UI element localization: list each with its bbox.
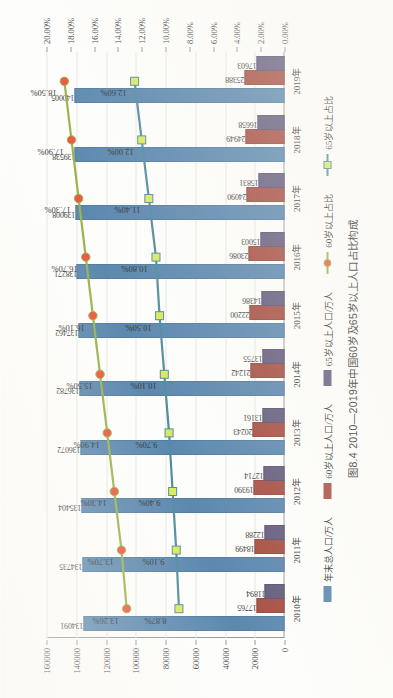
bar-value-label: 23086 (229, 251, 248, 260)
secondary-axis-tick-label: 2.00% (255, 22, 265, 44)
bar-population-65plus (262, 349, 284, 364)
primary-axis-tick-mark (284, 640, 285, 645)
primary-axis-tick-mark (165, 640, 166, 645)
secondary-axis-tick-label: 10.00% (160, 18, 170, 44)
bar-value-label: 15831 (239, 179, 258, 188)
primary-axis-tick-mark (225, 640, 226, 645)
category-tick-label: 2014年 (289, 361, 302, 388)
primary-axis-tick-label: 20000 (249, 648, 259, 669)
bar-population-60plus (244, 70, 284, 85)
percent-value-label: 17.90% (37, 147, 63, 157)
bar-population-60plus (256, 598, 284, 613)
gridline (46, 52, 47, 638)
secondary-axis-tick-label: 18.00% (65, 18, 75, 44)
bar-population-65plus (258, 174, 284, 189)
plot-area: 1340911776511894134735184991228813540419… (46, 52, 284, 638)
legend-marker (323, 161, 331, 169)
category-tick-label: 2019年 (289, 68, 302, 95)
gridline (225, 52, 226, 638)
bar-value-label: 17603 (237, 61, 256, 70)
bar-population-60plus (254, 539, 284, 554)
gridline (165, 52, 166, 638)
chart-legend: 年末总人口/万人60岁以上人口/万人65岁以上人口/万人60岁以上占比65岁以上… (316, 0, 338, 698)
legend-item[interactable]: 60岁以上人口/万人 (321, 404, 334, 499)
percent-value-label: 16.70% (51, 264, 77, 274)
bar-population-65plus (261, 291, 284, 306)
legend-bar-swatch (323, 586, 331, 602)
percent-value-label: 9.10% (142, 557, 164, 567)
bar-population-65plus (262, 408, 284, 423)
primary-axis-tick-label: 120000 (101, 648, 111, 674)
bar-population-60plus (246, 188, 284, 203)
percent-value-label: 13.26% (92, 616, 118, 626)
percent-value-label: 17.30% (44, 206, 70, 216)
bar-value-label: 16658 (238, 120, 257, 129)
bar-population-65plus (260, 232, 284, 247)
rotated-figure-canvas: 0200004000060000800001000001200001400001… (0, 0, 393, 698)
category-tick-label: 2017年 (289, 185, 302, 212)
bar-value-label: 13755 (243, 354, 262, 363)
gridline (76, 52, 77, 638)
bar-value-label: 12714 (244, 472, 263, 481)
bar-population-65plus (264, 525, 284, 540)
bar-total-population (79, 381, 284, 396)
bar-value-label: 134091 (60, 621, 83, 630)
percent-value-label: 10.80% (121, 264, 147, 274)
bar-population-60plus (252, 422, 284, 437)
legend-bar-swatch (323, 370, 331, 386)
category-tick-label: 2010年 (289, 595, 302, 622)
bar-value-label: 18499 (235, 544, 254, 553)
bar-value-label: 24090 (227, 193, 246, 202)
bar-population-60plus (245, 129, 284, 144)
secondary-axis-tick-label: 20.00% (41, 18, 51, 44)
legend-label: 60岁以上人口/万人 (321, 404, 334, 479)
bar-value-label: 21242 (231, 368, 250, 377)
primary-axis-tick-label: 80000 (160, 648, 170, 669)
percent-value-label: 8.87% (144, 616, 166, 626)
bar-value-label: 13161 (243, 413, 262, 422)
legend-item[interactable]: 65岁以上占比 (321, 96, 334, 176)
bar-total-population (74, 147, 284, 162)
bar-value-label: 25388 (225, 75, 244, 84)
bar-population-65plus (257, 115, 284, 130)
gridline (135, 52, 136, 638)
percent-value-label: 13.70% (87, 557, 113, 567)
primary-axis-tick-label: 160000 (41, 648, 51, 674)
legend-bar-swatch (323, 483, 331, 499)
secondary-axis-tick-label: 4.00% (231, 22, 241, 44)
bar-population-60plus (249, 305, 284, 320)
primary-axis-tick-mark (76, 640, 77, 645)
bar-value-label: 15003 (241, 237, 260, 246)
bar-population-65plus (256, 56, 284, 71)
primary-axis-tick-label: 100000 (130, 648, 140, 674)
primary-axis-tick-mark (195, 640, 196, 645)
category-tick-label: 2018年 (289, 126, 302, 153)
bar-value-label: 135404 (58, 504, 81, 513)
gridline (195, 52, 196, 638)
category-tick-label: 2013年 (289, 419, 302, 446)
percent-value-label: 9.70% (135, 440, 157, 450)
primary-axis-tick-mark (106, 640, 107, 645)
secondary-percent-axis: 0.00%2.00%4.00%6.00%8.00%10.00%12.00%14.… (46, 0, 284, 52)
bar-total-population (75, 206, 284, 221)
bar-total-population (81, 499, 284, 514)
percent-value-label: 18.50% (30, 88, 56, 98)
secondary-axis-tick-label: 0.00% (279, 22, 289, 44)
chart-figure: 0200004000060000800001000001200001400001… (0, 0, 393, 698)
legend-item[interactable]: 65岁以上人口/万人 (321, 292, 334, 387)
bar-population-60plus (253, 481, 284, 496)
bar-value-label: 22200 (230, 310, 249, 319)
legend-label: 60岁以上占比 (321, 194, 334, 248)
bar-value-label: 17765 (237, 603, 256, 612)
legend-item[interactable]: 60岁以上占比 (321, 194, 334, 274)
primary-axis-tick-mark (254, 640, 255, 645)
bar-value-label: 14386 (242, 296, 261, 305)
bar-population-65plus (264, 584, 284, 599)
category-axis: 2010年2011年2012年2013年2014年2015年2016年2017年… (286, 52, 308, 638)
legend-label: 年末总人口/万人 (321, 517, 334, 583)
legend-item[interactable]: 年末总人口/万人 (321, 517, 334, 603)
figure-caption: 图8.4 2010—2019年中国60岁及65岁以上人口占比构成 (344, 0, 359, 698)
legend-line-swatch (322, 154, 332, 176)
primary-axis-tick-label: 0 (279, 648, 289, 652)
legend-line-swatch (322, 252, 332, 274)
